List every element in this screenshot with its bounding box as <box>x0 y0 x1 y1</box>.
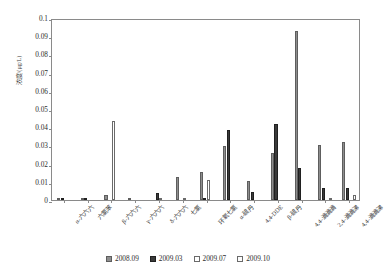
legend-item[interactable]: 2009.07 <box>194 255 227 262</box>
y-tick-mark <box>49 111 52 112</box>
x-axis-tick-labels: α-六六六六氯苯β-六六六γ-六六六δ-六六六七氯环氧七氯α-硫丹4,4-DDE… <box>51 201 360 257</box>
plot-area <box>51 19 360 201</box>
bar-group <box>104 20 118 200</box>
y-tick-mark <box>49 38 52 39</box>
y-tick-mark <box>49 93 52 94</box>
legend-item[interactable]: 2009.10 <box>237 255 270 262</box>
bar <box>128 198 131 200</box>
x-tick-label: β-硫丹 <box>286 204 303 221</box>
bar <box>353 195 356 200</box>
legend-item[interactable]: 2009.03 <box>150 255 183 262</box>
bar <box>274 124 277 200</box>
bar-group <box>247 20 261 200</box>
bar <box>176 177 179 200</box>
bar-group <box>200 20 214 200</box>
y-tick-mark <box>49 129 52 130</box>
y-axis-tick-labels: 00.010.020.030.040.050.060.070.080.090.1 <box>0 0 48 277</box>
y-tick-mark <box>49 75 52 76</box>
x-tick-label: 环氧七氯 <box>217 204 238 225</box>
bar-group <box>57 20 71 200</box>
x-tick-label: γ-六六六 <box>145 204 166 225</box>
bar-group <box>176 20 190 200</box>
x-tick-label: δ-六六六 <box>169 204 190 225</box>
bar-group <box>152 20 166 200</box>
bar-group <box>128 20 142 200</box>
bar-group <box>223 20 237 200</box>
bar-group <box>342 20 356 200</box>
legend-swatch-2009-07 <box>194 256 200 262</box>
y-tick-label: 0.06 <box>2 88 48 95</box>
legend-swatch-2009-10 <box>237 256 243 262</box>
y-tick-label: 0.1 <box>2 15 48 22</box>
legend-label: 2009.10 <box>246 255 270 262</box>
bar <box>207 180 210 200</box>
x-tick-label: β-六六六 <box>121 204 142 225</box>
y-tick-label: 0 <box>2 197 48 204</box>
y-tick-label: 0.03 <box>2 143 48 150</box>
bar <box>322 188 325 200</box>
y-tick-mark <box>49 184 52 185</box>
bar <box>298 168 301 200</box>
bar-group <box>271 20 285 200</box>
bar <box>104 195 107 200</box>
bar-group <box>295 20 309 200</box>
legend-label: 2008.09 <box>115 255 139 262</box>
y-tick-mark <box>49 166 52 167</box>
y-tick-label: 0.04 <box>2 125 48 132</box>
bar <box>227 130 230 200</box>
legend-swatch-2008-09 <box>106 256 112 262</box>
x-tick-label: 4,4-滴滴涕 <box>360 204 384 228</box>
bar-group <box>81 20 95 200</box>
bar-group <box>318 20 332 200</box>
legend-label: 2009.03 <box>159 255 183 262</box>
x-tick-label: 2,4-滴滴涕 <box>336 204 360 228</box>
bar <box>329 198 332 200</box>
x-tick-label: α-硫丹 <box>238 204 255 221</box>
legend-item[interactable]: 2008.09 <box>106 255 139 262</box>
bar-series-container <box>52 20 359 200</box>
y-tick-label: 0.01 <box>2 179 48 186</box>
y-tick-label: 0.08 <box>2 52 48 59</box>
legend-label: 2009.07 <box>203 255 227 262</box>
bar <box>112 121 115 200</box>
x-tick-label: 七氯 <box>189 204 202 217</box>
x-tick-label: 4,4-DDE <box>264 204 284 224</box>
y-tick-label: 0.09 <box>2 34 48 41</box>
x-tick-label: α-六六六 <box>74 204 95 225</box>
y-tick-mark <box>49 147 52 148</box>
chart-legend: 2008.092009.032009.072009.10 <box>0 255 376 262</box>
bar <box>251 192 254 200</box>
bar <box>200 172 203 200</box>
legend-swatch-2009-03 <box>150 256 156 262</box>
x-tick-label: 4,4-滴滴滴 <box>313 204 337 228</box>
y-tick-label: 0.07 <box>2 70 48 77</box>
y-tick-label: 0.02 <box>2 161 48 168</box>
bar <box>346 188 349 200</box>
y-tick-mark <box>49 20 52 21</box>
y-tick-mark <box>49 56 52 57</box>
y-tick-label: 0.05 <box>2 106 48 113</box>
x-tick-label: 六氯苯 <box>96 204 113 221</box>
